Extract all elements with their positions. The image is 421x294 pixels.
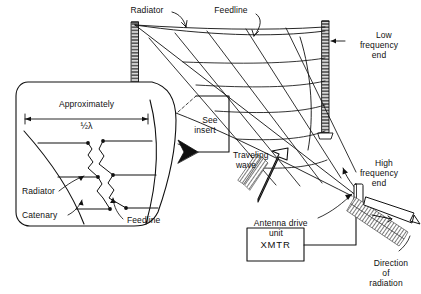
- traveling-wave-text: Traveling wave: [233, 150, 269, 170]
- low-frequency-arrow: [331, 39, 345, 44]
- label-feedline-top: Feedline: [202, 5, 260, 15]
- feedline-leader: [252, 14, 260, 36]
- label-traveling-wave: Traveling wave: [216, 140, 276, 180]
- label-radiator-top: Radiator: [118, 5, 176, 15]
- insert-dimension-value: ½λ: [36, 121, 137, 131]
- low-frequency-end-text: Low frequency end: [360, 30, 398, 60]
- see-insert-text: See insert: [194, 115, 217, 135]
- label-high-frequency-end: High frequency end: [348, 148, 410, 198]
- label-see-insert: See insert: [183, 105, 227, 145]
- insert-label-feedline: Feedline: [127, 215, 160, 225]
- right-mast: [318, 21, 333, 139]
- label-low-frequency-end: Low frequency end: [348, 20, 410, 70]
- curtain-far-bulge: [300, 37, 311, 150]
- insert-label-catenary: Catenary: [22, 210, 57, 220]
- insert-label-radiator: Radiator: [22, 186, 55, 196]
- insert-dimension-title: Approximately: [36, 99, 137, 109]
- antenna-diagram-figure: Radiator Feedline Low frequency end High…: [0, 0, 421, 294]
- antenna-drive-unit-text: Antenna drive unit: [254, 218, 308, 238]
- high-frequency-end-text: High frequency end: [360, 158, 398, 188]
- label-direction-of-radiation: Direction of radiation: [355, 248, 417, 294]
- direction-of-radiation-text: Direction of radiation: [369, 258, 408, 288]
- antenna-drive-leader: [318, 194, 352, 218]
- label-transmitter: XMTR: [247, 239, 304, 250]
